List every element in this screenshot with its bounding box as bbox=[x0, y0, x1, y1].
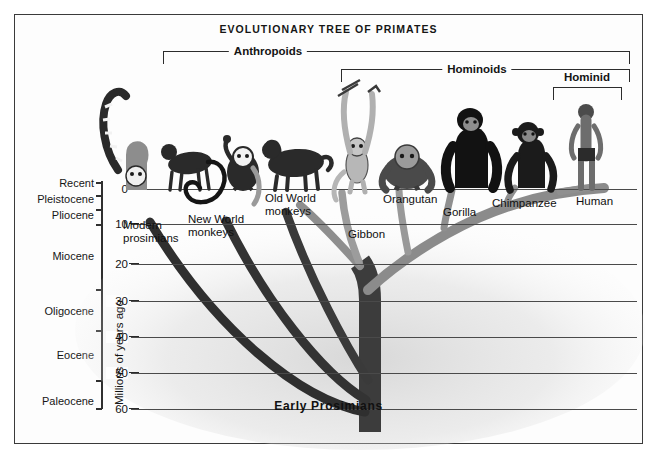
epoch-tick-5 bbox=[96, 330, 102, 332]
page-title: EVOLUTIONARY TREE OF PRIMATES bbox=[0, 23, 657, 35]
root-caption: Early Prosimians bbox=[0, 399, 657, 413]
species-label-old-world-monkeys: Old World monkeys bbox=[265, 192, 316, 218]
epoch-axis-line bbox=[101, 181, 103, 409]
species-label-new-world-monkeys: New World monkeys bbox=[188, 213, 244, 239]
species-label-line: New World bbox=[188, 213, 244, 226]
species-label-line: Modern bbox=[123, 219, 179, 232]
epoch-label-miocene: Miocene bbox=[52, 250, 94, 262]
tick-dash-20 bbox=[129, 263, 139, 264]
evolutionary-tree-figure: EVOLUTIONARY TREE OF PRIMATES Anthropoid… bbox=[0, 0, 657, 459]
species-label-line: prosimians bbox=[123, 232, 179, 245]
tick-dash-30 bbox=[129, 300, 139, 301]
species-label-gorilla: Gorilla bbox=[443, 206, 476, 219]
species-label-chimpanzee: Chimpanzee bbox=[492, 197, 557, 210]
epoch-tick-1 bbox=[96, 195, 102, 197]
epoch-label-recent: Recent bbox=[59, 177, 94, 189]
epoch-label-pliocene: Pliocene bbox=[52, 209, 94, 221]
tick-dash-50 bbox=[129, 372, 139, 373]
epoch-label-pleistocene: Pleistocene bbox=[37, 193, 94, 205]
y-axis-label: Millions of years ago bbox=[113, 300, 125, 405]
gridline-40 bbox=[131, 337, 637, 338]
species-label-human: Human bbox=[576, 195, 613, 208]
tick-label-0: 0 bbox=[106, 183, 128, 195]
gridline-20 bbox=[131, 264, 637, 265]
tick-label-20: 20 bbox=[106, 258, 128, 270]
gridline-50 bbox=[131, 373, 637, 374]
species-label-line: monkeys bbox=[265, 205, 316, 218]
epoch-tick-3 bbox=[96, 224, 102, 226]
epoch-tick-0 bbox=[96, 182, 102, 184]
tick-dash-40 bbox=[129, 336, 139, 337]
bracket-label-hominid: Hominid bbox=[559, 71, 615, 83]
epoch-tick-2 bbox=[96, 209, 102, 211]
epoch-label-eocene: Eocene bbox=[57, 349, 94, 361]
bracket-label-hominoids: Hominoids bbox=[442, 63, 511, 75]
species-label-orangutan: Orangutan bbox=[383, 193, 437, 206]
bracket-label-anthropoids: Anthropoids bbox=[229, 45, 307, 57]
gridline-30 bbox=[131, 301, 637, 302]
gridline-0 bbox=[131, 189, 637, 190]
species-label-line: Old World bbox=[265, 192, 316, 205]
species-label-modern-prosimians: Modern prosimians bbox=[123, 219, 179, 245]
species-label-line: monkeys bbox=[188, 226, 244, 239]
tick-dash-0 bbox=[129, 188, 139, 189]
bracket-hominid bbox=[553, 87, 622, 100]
epoch-label-oligocene: Oligocene bbox=[44, 305, 94, 317]
epoch-tick-4 bbox=[96, 289, 102, 291]
epoch-tick-6 bbox=[96, 380, 102, 382]
species-label-gibbon: Gibbon bbox=[348, 228, 385, 241]
